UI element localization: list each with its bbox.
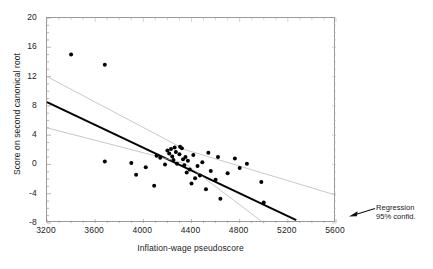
- data-point: [198, 173, 202, 177]
- data-point: [155, 154, 159, 158]
- data-point: [185, 170, 189, 174]
- data-point: [262, 201, 266, 205]
- y-tick-label: 12: [27, 71, 41, 81]
- data-point: [134, 173, 138, 177]
- plot-area: [46, 17, 335, 222]
- upper-confidence-band: [47, 77, 336, 196]
- y-tick-label: 8: [32, 100, 41, 110]
- data-point: [171, 158, 175, 162]
- data-point: [193, 176, 197, 180]
- data-point: [174, 150, 178, 154]
- data-point: [182, 163, 186, 167]
- data-point: [177, 152, 181, 156]
- annotation-line-confidence: 95% confid.: [376, 212, 433, 221]
- data-point: [129, 161, 133, 165]
- data-point: [218, 197, 222, 201]
- x-tick-label: 5600: [325, 225, 345, 235]
- data-point: [204, 187, 208, 191]
- data-point: [245, 162, 249, 166]
- x-axis-tick-labels: 3200360040004400480052005600: [46, 225, 335, 237]
- y-tick-label: 16: [27, 41, 41, 51]
- x-tick-label: 4000: [132, 225, 152, 235]
- data-point: [169, 147, 173, 151]
- data-point: [196, 164, 200, 168]
- data-point: [69, 53, 73, 57]
- annotation-arrow-icon: [348, 206, 376, 218]
- y-tick-label: 0: [32, 158, 41, 168]
- data-point: [144, 165, 148, 169]
- chart-root: 201612840-4-8 32003600400044004800520056…: [0, 0, 433, 269]
- data-point: [259, 180, 263, 184]
- data-point: [180, 146, 184, 150]
- x-axis-title: Inflation-wage pseudoscore: [46, 243, 335, 253]
- x-tick-label: 3200: [36, 225, 56, 235]
- data-point: [238, 166, 242, 170]
- data-point: [158, 156, 162, 160]
- x-tick-label: 3600: [84, 225, 104, 235]
- data-point: [216, 155, 220, 159]
- data-point: [206, 151, 210, 155]
- data-point: [173, 146, 177, 150]
- y-axis-title: Score on second canonical root: [12, 12, 22, 217]
- x-tick-label: 4800: [229, 225, 249, 235]
- data-point: [186, 159, 190, 163]
- data-point: [200, 160, 204, 164]
- data-point: [167, 151, 171, 155]
- plot-canvas: [47, 18, 336, 223]
- y-tick-label: -4: [29, 188, 41, 198]
- data-point: [170, 154, 174, 158]
- lower-confidence-band: [47, 128, 264, 223]
- data-point: [209, 169, 213, 173]
- regression-annotation: Regression 95% confid.: [376, 203, 433, 221]
- annotation-line-regression: Regression: [376, 203, 433, 212]
- data-point: [226, 171, 230, 175]
- data-point: [183, 155, 187, 159]
- y-tick-label: 20: [27, 12, 41, 22]
- data-point: [190, 181, 194, 185]
- regression-line: [47, 102, 296, 220]
- x-tick-label: 4400: [181, 225, 201, 235]
- data-point: [175, 162, 179, 166]
- y-tick-label: 4: [32, 129, 41, 139]
- data-point: [103, 160, 107, 164]
- data-point: [103, 63, 107, 67]
- data-point: [188, 168, 192, 172]
- data-point: [191, 153, 195, 157]
- series-observations: [69, 53, 266, 205]
- data-point: [233, 157, 237, 161]
- data-point: [214, 178, 218, 182]
- x-tick-label: 5200: [277, 225, 297, 235]
- data-point: [163, 162, 167, 166]
- data-point: [152, 184, 156, 188]
- minor-ticks: [47, 18, 336, 223]
